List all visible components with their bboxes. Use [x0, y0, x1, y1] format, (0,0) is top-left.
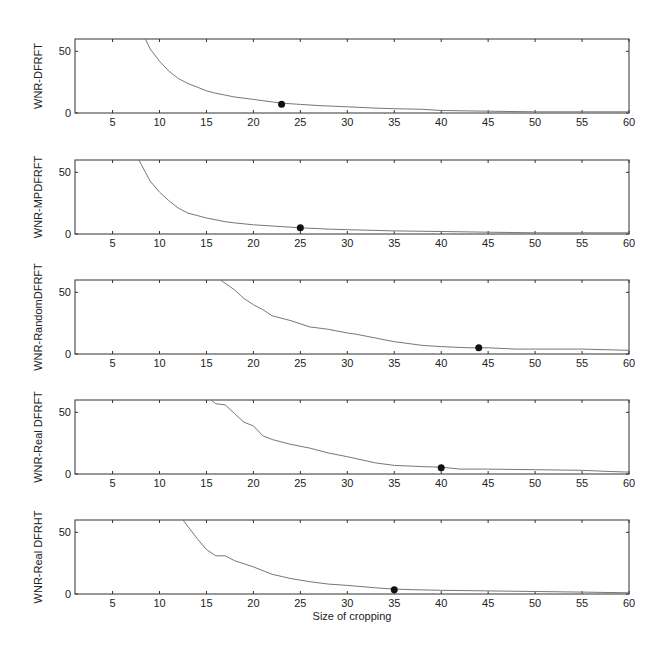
x-tick-label: 20 — [247, 237, 259, 249]
x-tick-label: 30 — [341, 597, 353, 609]
y-tick-label: 0 — [65, 468, 71, 480]
x-tick-label: 60 — [623, 357, 635, 369]
y-tick-label: 50 — [59, 526, 71, 538]
axes-box — [75, 160, 629, 234]
x-tick-label: 15 — [200, 357, 212, 369]
x-tick-label: 10 — [153, 116, 165, 128]
x-tick-label: 45 — [482, 477, 494, 489]
highlight-marker — [391, 586, 398, 593]
x-tick-label: 20 — [247, 116, 259, 128]
x-tick-label: 40 — [435, 237, 447, 249]
x-tick-label: 10 — [153, 597, 165, 609]
x-tick-label: 15 — [200, 597, 212, 609]
y-axis-label: WNR-DFRFT — [32, 43, 44, 109]
x-tick-label: 40 — [435, 357, 447, 369]
x-tick-label: 5 — [109, 597, 115, 609]
x-tick-label: 35 — [388, 116, 400, 128]
x-tick-label: 60 — [623, 237, 635, 249]
x-tick-label: 55 — [576, 477, 588, 489]
highlight-marker — [475, 344, 482, 351]
x-tick-label: 30 — [341, 357, 353, 369]
y-tick-label: 50 — [59, 45, 71, 57]
x-tick-label: 25 — [294, 597, 306, 609]
y-axis-label: WNR-RandomDFRFT — [32, 263, 44, 371]
subplot-1: 51015202530354045505560050WNR-DFRFT — [32, 39, 635, 128]
x-tick-label: 50 — [529, 237, 541, 249]
axes-box — [75, 280, 629, 354]
y-axis-label: WNR-MPDFRFT — [32, 155, 44, 238]
x-tick-label: 25 — [294, 477, 306, 489]
x-tick-label: 10 — [153, 477, 165, 489]
x-tick-label: 35 — [388, 357, 400, 369]
y-tick-label: 0 — [65, 107, 71, 119]
x-tick-label: 40 — [435, 477, 447, 489]
x-tick-label: 60 — [623, 477, 635, 489]
subplot-5: 51015202530354045505560050WNR-Real DFRHT… — [32, 510, 635, 622]
x-tick-label: 5 — [109, 477, 115, 489]
x-tick-label: 15 — [200, 477, 212, 489]
x-tick-label: 60 — [623, 116, 635, 128]
x-tick-label: 30 — [341, 237, 353, 249]
subplot-4: 51015202530354045505560050WNR-Real DFRFT — [32, 391, 635, 489]
x-tick-label: 55 — [576, 116, 588, 128]
y-axis-label: WNR-Real DFRHT — [32, 510, 44, 603]
x-tick-label: 25 — [294, 357, 306, 369]
y-tick-label: 50 — [59, 406, 71, 418]
x-tick-label: 45 — [482, 237, 494, 249]
y-tick-label: 0 — [65, 588, 71, 600]
y-tick-label: 50 — [59, 286, 71, 298]
x-tick-label: 50 — [529, 477, 541, 489]
highlight-marker — [438, 464, 445, 471]
x-tick-label: 45 — [482, 116, 494, 128]
subplot-3: 51015202530354045505560050WNR-RandomDFRF… — [32, 263, 635, 371]
x-tick-label: 50 — [529, 116, 541, 128]
figure: 51015202530354045505560050WNR-DFRFT51015… — [0, 0, 670, 650]
x-tick-label: 35 — [388, 237, 400, 249]
x-tick-label: 50 — [529, 597, 541, 609]
x-tick-label: 50 — [529, 357, 541, 369]
x-tick-label: 5 — [109, 116, 115, 128]
x-tick-label: 55 — [576, 597, 588, 609]
x-tick-label: 45 — [482, 357, 494, 369]
x-tick-label: 15 — [200, 237, 212, 249]
highlight-marker — [278, 101, 285, 108]
x-tick-label: 10 — [153, 237, 165, 249]
y-tick-label: 0 — [65, 228, 71, 240]
x-tick-label: 5 — [109, 237, 115, 249]
y-tick-label: 50 — [59, 166, 71, 178]
axes-box — [75, 520, 629, 594]
x-tick-label: 25 — [294, 237, 306, 249]
x-axis-label: Size of cropping — [313, 610, 392, 622]
x-tick-label: 55 — [576, 237, 588, 249]
x-tick-label: 20 — [247, 477, 259, 489]
axes-box — [75, 39, 629, 113]
x-tick-label: 40 — [435, 597, 447, 609]
x-tick-label: 55 — [576, 357, 588, 369]
x-tick-label: 45 — [482, 597, 494, 609]
subplot-2: 51015202530354045505560050WNR-MPDFRFT — [32, 155, 635, 249]
highlight-marker — [297, 224, 304, 231]
x-tick-label: 20 — [247, 597, 259, 609]
y-tick-label: 0 — [65, 348, 71, 360]
x-tick-label: 30 — [341, 116, 353, 128]
x-tick-label: 60 — [623, 597, 635, 609]
x-tick-label: 35 — [388, 597, 400, 609]
x-tick-label: 35 — [388, 477, 400, 489]
x-tick-label: 10 — [153, 357, 165, 369]
axes-box — [75, 400, 629, 474]
x-tick-label: 40 — [435, 116, 447, 128]
x-tick-label: 5 — [109, 357, 115, 369]
y-axis-label: WNR-Real DFRFT — [32, 391, 44, 483]
x-tick-label: 20 — [247, 357, 259, 369]
x-tick-label: 15 — [200, 116, 212, 128]
x-tick-label: 30 — [341, 477, 353, 489]
x-tick-label: 25 — [294, 116, 306, 128]
